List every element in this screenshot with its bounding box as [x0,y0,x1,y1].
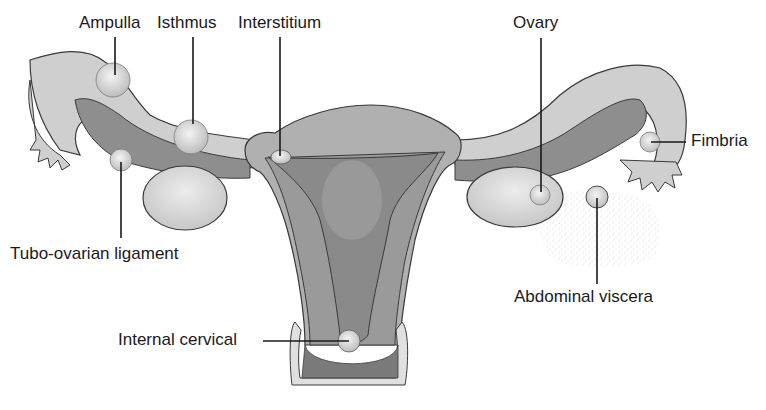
isthmus-implant [174,120,208,154]
label-isthmus: Isthmus [157,13,217,33]
ampulla-implant [96,63,130,97]
label-internal-cervical: Internal cervical [118,330,237,350]
anatomy-illustration [0,0,766,410]
label-ampulla: Ampulla [79,13,140,33]
label-abdominal-viscera: Abdominal viscera [514,287,653,307]
ovary-implant [530,185,550,205]
label-fimbria: Fimbria [691,131,748,151]
label-ovary: Ovary [513,13,558,33]
label-interstitium: Interstitium [238,13,321,33]
interstitium-implant [271,150,291,164]
right-fimbria-fringe [620,160,682,192]
cavity-highlight [322,160,382,240]
left-ovary [143,166,227,230]
ectopic-pregnancy-diagram: Ampulla Isthmus Interstitium Ovary Fimbr… [0,0,766,410]
label-tubo-ovarian-ligament: Tubo-ovarian ligament [10,244,179,264]
